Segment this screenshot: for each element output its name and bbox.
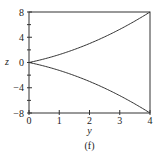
x-tick-label: 1 [57,115,62,126]
plot-frame [29,12,150,113]
y-tick-label: −4 [13,82,24,93]
x-tick-label: 3 [117,115,122,126]
figure-caption: (f) [85,140,95,152]
x-axis-label: y [86,125,92,136]
x-tick-label: 0 [27,115,32,126]
x-tick-label: 4 [148,115,153,126]
axis-labels: z y (f) [4,56,94,152]
chart: 01234840−4−8 z y (f) [0,0,162,159]
plot-border [29,12,150,113]
lower-curve [29,63,150,114]
axis-ticks: 01234840−4−8 [13,7,152,127]
y-axis-label: z [4,56,9,67]
y-tick-label: 8 [19,7,24,18]
y-tick-label: 0 [19,57,24,68]
y-tick-label: 4 [19,32,24,43]
data-curves [29,12,150,113]
upper-curve [29,12,150,63]
y-tick-label: −8 [13,108,24,119]
